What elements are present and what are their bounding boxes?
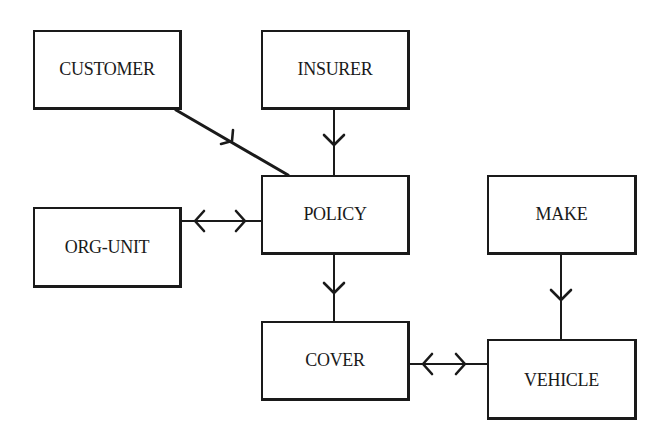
entity-label: VEHICLE — [524, 370, 599, 391]
entity-label: ORG-UNIT — [65, 237, 150, 258]
entity-vehicle: VEHICLE — [487, 339, 637, 420]
link-customer-policy — [176, 110, 288, 175]
link-policy-cover — [324, 255, 344, 321]
entity-policy: POLICY — [261, 175, 410, 255]
link-make-vehicle — [551, 255, 571, 339]
entity-label: POLICY — [303, 204, 366, 225]
link-cover-vehicle — [410, 354, 487, 374]
entity-org-unit: ORG-UNIT — [33, 207, 182, 288]
entity-make: MAKE — [487, 175, 637, 255]
link-insurer-policy — [324, 110, 344, 175]
entity-label: CUSTOMER — [59, 59, 154, 80]
entity-insurer: INSURER — [261, 30, 410, 110]
entity-cover: COVER — [261, 321, 410, 401]
entity-label: COVER — [305, 350, 365, 371]
entity-customer: CUSTOMER — [33, 30, 182, 110]
link-orgunit-policy — [182, 211, 261, 231]
entity-label: MAKE — [536, 204, 588, 225]
er-diagram: CUSTOMER INSURER POLICY ORG-UNIT MAKE CO… — [0, 0, 668, 442]
entity-label: INSURER — [298, 59, 373, 80]
